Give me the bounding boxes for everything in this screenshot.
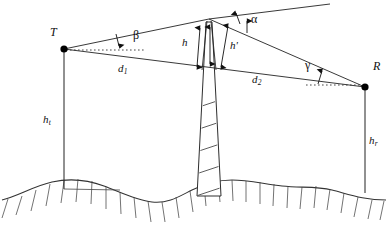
label-transmitter: T	[50, 26, 57, 38]
transmitter-mast	[64, 50, 120, 190]
ground-hatching	[2, 179, 384, 222]
label-height-receiver-base: h	[369, 134, 375, 146]
geometry-diagram-svg	[0, 0, 388, 236]
angle-alpha-marker	[236, 13, 240, 24]
label-distance-d1-sub: 1	[124, 67, 128, 76]
dimension-height-h	[197, 28, 200, 67]
label-angle-alpha: α	[251, 13, 257, 25]
diagram-canvas: T R β α γ h h' d1 d2 ht hr	[0, 0, 388, 236]
angle-beta-marker	[116, 34, 119, 46]
label-height-receiver: hr	[369, 135, 377, 146]
label-distance-d2-sub: 2	[258, 78, 262, 87]
label-receiver: R	[373, 60, 380, 72]
dimension-height-h-prime	[221, 26, 228, 67]
label-distance-d2: d2	[252, 74, 261, 85]
label-height-h: h	[182, 37, 188, 48]
label-height-h-prime: h'	[230, 40, 238, 51]
label-distance-d1-base: d	[118, 62, 124, 74]
label-distance-d1: d1	[118, 63, 127, 74]
label-height-transmitter: ht	[43, 114, 51, 125]
hatched-tower-obstacle	[190, 22, 232, 218]
label-height-transmitter-base: h	[43, 113, 49, 125]
extended-line-of-sight-ray	[209, 4, 330, 19]
label-height-transmitter-sub: t	[49, 118, 51, 127]
label-distance-d2-base: d	[252, 73, 258, 85]
label-angle-gamma: γ	[305, 59, 310, 71]
angle-gamma-marker	[318, 71, 322, 84]
label-height-receiver-sub: r	[375, 139, 378, 148]
label-angle-beta: β	[133, 29, 139, 41]
